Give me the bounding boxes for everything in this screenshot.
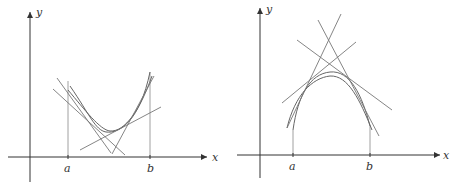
concave-up-curve <box>70 72 150 132</box>
tangent-line-1 <box>287 14 341 128</box>
tangent-line-2 <box>282 42 356 103</box>
tangent-line-3 <box>297 40 392 110</box>
right-figure: x y a b <box>237 3 450 178</box>
b-label: b <box>366 160 373 173</box>
x-axis-label: x <box>443 149 450 162</box>
b-label: b <box>147 162 154 175</box>
tangent-line-3 <box>80 107 161 150</box>
concave-down-curve-inner <box>287 76 372 130</box>
a-label: a <box>289 160 296 173</box>
diagram-canvas: x y a b x y a b <box>0 0 451 192</box>
a-label: a <box>64 162 71 175</box>
left-figure: x y a b <box>8 6 219 182</box>
y-axis-label: y <box>265 3 273 16</box>
tangent-line-4 <box>318 20 379 136</box>
tangent-line-4 <box>112 76 154 154</box>
y-axis-label: y <box>35 6 43 19</box>
tangent-line-1 <box>57 78 111 153</box>
x-axis-label: x <box>212 151 219 164</box>
